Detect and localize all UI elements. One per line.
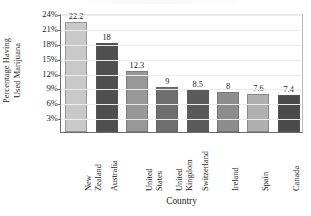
y-axis-tick-label: 21% [42, 24, 58, 34]
cropped-title-artifact [88, 0, 238, 4]
bar-value-label: 9 [165, 77, 169, 86]
bar[interactable] [247, 94, 269, 132]
gridline [61, 104, 302, 105]
y-axis-tick-label: 9% [47, 83, 58, 93]
bar-slot: 9 [152, 15, 182, 132]
y-axis-title-line-2: Used Marijuana [13, 42, 22, 97]
x-axis-tick-label-line: Switzerland [201, 151, 211, 191]
bar-value-label: 12.3 [130, 61, 145, 70]
bar-chart: Percentage Having Used Marijuana 3%6%9%1… [0, 0, 311, 216]
bar-slot: 18 [91, 15, 121, 132]
bar[interactable] [126, 71, 148, 132]
x-axis-tick-label-line: Australia [110, 160, 120, 191]
y-axis-tick-mark [58, 60, 61, 61]
gridline [61, 75, 302, 76]
y-axis-tick-label: 15% [42, 54, 58, 64]
gridline [61, 45, 302, 46]
y-axis-tick-label: 18% [42, 39, 58, 49]
bar-series: 22.21812.398.587.67.4 [61, 15, 302, 132]
y-axis-title: Percentage Having Used Marijuana [0, 0, 26, 140]
bar-value-label: 8.5 [192, 80, 202, 89]
bar[interactable] [187, 90, 209, 132]
y-axis-tick-labels: 3%6%9%12%15%18%21%24% [26, 0, 60, 140]
y-axis-tick-mark [58, 75, 61, 76]
plot-area: 22.21812.398.587.67.4 [60, 14, 303, 133]
y-axis-tick-mark [58, 15, 61, 16]
bar-value-label: 18 [102, 33, 110, 42]
x-axis-tick-label-line: Canada [292, 166, 302, 191]
bar[interactable] [217, 92, 239, 132]
bar[interactable] [65, 22, 87, 132]
gridline [61, 15, 302, 16]
bar-slot: 7.4 [274, 15, 304, 132]
x-axis-tick-label-line: Ireland [231, 167, 241, 191]
bar-slot: 8 [213, 15, 243, 132]
y-axis-tick-label: 24% [42, 9, 58, 19]
y-axis-tick-mark [58, 89, 61, 90]
x-axis-title: Country [60, 196, 303, 206]
bar[interactable] [156, 87, 178, 132]
y-axis-tick-mark [58, 45, 61, 46]
x-axis-tick-label-line: Spain [261, 172, 271, 191]
gridline [61, 30, 302, 31]
bar-value-label: 22.2 [69, 12, 84, 21]
y-axis-title-line-1: Percentage Having [3, 37, 12, 102]
bar-slot: 22.2 [61, 15, 91, 132]
x-axis-tick-labels: NewZealandAustraliaUnitedStatesUnitedKin… [60, 135, 303, 193]
bar-slot: 8.5 [183, 15, 213, 132]
y-axis-tick-mark [58, 104, 61, 105]
y-axis-tick-mark [58, 119, 61, 120]
bar-slot: 7.6 [243, 15, 273, 132]
x-axis-tick-label: Canada [273, 135, 311, 193]
bar-slot: 12.3 [122, 15, 152, 132]
y-axis-tick-label: 12% [42, 69, 58, 79]
gridline [61, 119, 302, 120]
bar[interactable] [278, 95, 300, 132]
y-axis-tick-label: 6% [47, 98, 58, 108]
gridline [61, 60, 302, 61]
y-axis-tick-label: 3% [47, 113, 58, 123]
y-axis-tick-mark [58, 30, 61, 31]
gridline [61, 89, 302, 90]
